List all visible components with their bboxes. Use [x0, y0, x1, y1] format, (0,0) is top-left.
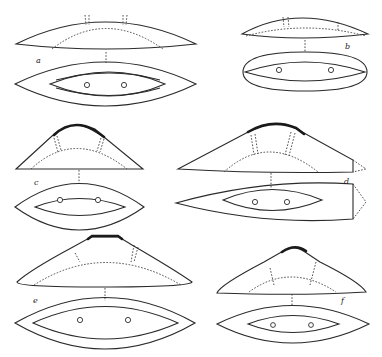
panel-d [176, 124, 366, 221]
panel-e [15, 236, 195, 349]
diagram-figure [0, 0, 382, 357]
panel-b [242, 17, 368, 91]
panel-a [15, 15, 196, 106]
panel-label-d: d [344, 177, 349, 186]
panel-label-b: b [345, 42, 350, 51]
panel-label-f: f [341, 296, 344, 305]
panel-label-c: c [34, 178, 38, 187]
panel-f [217, 247, 369, 343]
panel-label-a: a [36, 56, 41, 65]
panel-label-e: e [33, 296, 38, 305]
